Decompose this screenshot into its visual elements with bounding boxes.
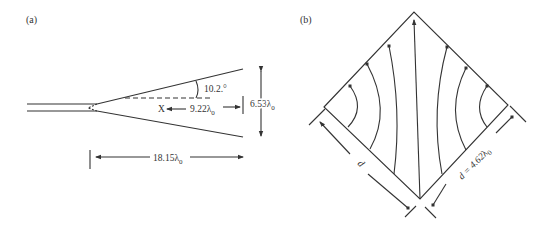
panel-b-label: (b) [300, 14, 312, 26]
right-dim-tick-bottom [425, 207, 436, 218]
panel-b: (b) [300, 12, 526, 218]
panel-a-label: (a) [26, 14, 37, 26]
field-line-left-2 [367, 64, 380, 149]
right-dim-arrow-up [496, 117, 512, 133]
field-line-center [414, 20, 420, 199]
horn-throat [88, 104, 97, 111]
field-line-left-1 [389, 46, 397, 174]
horn-lower-flare [97, 111, 243, 137]
left-dim-tick-top [309, 109, 325, 125]
side-length-value: d = 4.62λ0 [456, 145, 494, 183]
left-dim-tick-bottom [405, 206, 416, 217]
left-dim-arrow-down [368, 174, 408, 208]
diamond-aperture-outline [324, 12, 508, 199]
right-dim-arrow-down [433, 184, 446, 205]
point-x-label: X [158, 104, 165, 114]
panel-b-labels: d d = 4.62λ0 [356, 145, 495, 183]
horn-length-label: 18.15λ0 [153, 153, 183, 166]
left-dim-arrow-up [320, 122, 350, 154]
aperture-width-label: 6.53λ0 [250, 99, 275, 112]
flare-angle-label: 10.2.° [204, 84, 227, 94]
side-length-symbol: d [356, 158, 368, 170]
field-line-right-2 [456, 68, 467, 150]
aperture-distance-label: 9.22λ0 [190, 104, 215, 117]
flare-angle-arc [196, 81, 198, 98]
field-line-right-3 [480, 86, 488, 127]
field-line-right-1 [437, 47, 447, 174]
right-dim-tick-top [510, 106, 526, 122]
figure: (a) 10.2.° X 9.22λ0 6.53λ0 18.15λ0 (b) [0, 0, 548, 225]
field-line-left-3 [348, 86, 358, 127]
